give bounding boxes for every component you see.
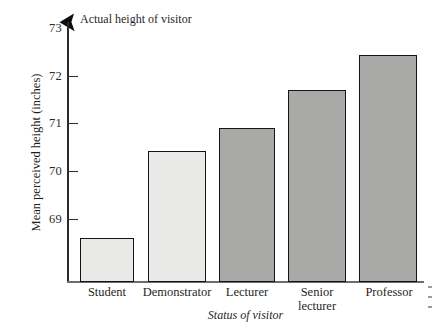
y-axis-title: Mean perceived height (inches)	[29, 38, 44, 268]
actual-height-annotation-label: Actual height of visitor	[80, 12, 192, 27]
y-tick-71	[69, 123, 78, 124]
bar-demonstrator	[148, 151, 206, 283]
bar-professor	[359, 55, 417, 282]
x-category-label-professor: Professor	[354, 286, 424, 300]
bar-senior-lecturer	[288, 90, 346, 282]
x-category-label-senior-lecturer-line2: lecturer	[283, 300, 351, 314]
y-tick-70	[69, 171, 78, 172]
bar-chart: Actual height of visitor 73 72 71 70 69 …	[0, 0, 433, 331]
x-category-label-senior-lecturer-line1: Senior	[283, 286, 351, 300]
bar-student	[80, 238, 134, 282]
x-axis-title: Status of visitor	[67, 308, 424, 323]
page-edge-mark	[428, 306, 432, 308]
y-tick-69	[69, 219, 78, 220]
bar-lecturer	[219, 128, 275, 282]
x-category-label-student: Student	[72, 286, 142, 300]
x-category-label-lecturer: Lecturer	[213, 286, 281, 300]
y-axis-line	[67, 22, 69, 283]
x-category-label-demonstrator: Demonstrator	[134, 286, 220, 300]
page-edge-mark	[428, 286, 432, 288]
y-tick-label-73: 73	[36, 22, 62, 34]
x-category-label-senior-lecturer: Senior lecturer	[283, 286, 351, 313]
y-tick-72	[69, 76, 78, 77]
page-edge-mark	[428, 296, 432, 298]
